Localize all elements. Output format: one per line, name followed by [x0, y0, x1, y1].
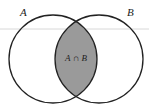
set-a-label: A: [19, 6, 27, 18]
venn-diagram: A B A ∩ B: [0, 0, 149, 106]
venn-canvas: A B A ∩ B: [0, 0, 149, 106]
set-b-label: B: [127, 6, 134, 18]
intersection-label: A ∩ B: [64, 53, 87, 63]
